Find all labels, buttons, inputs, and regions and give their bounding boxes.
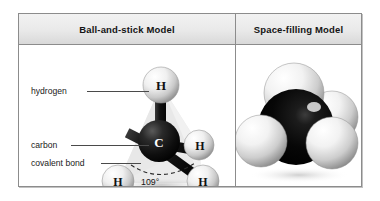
atom-label-hydrogen-top: H [156,78,166,93]
callout-label-carbon: carbon [31,140,57,150]
cell-space-filling-model [236,45,361,186]
header-cell-ball-and-stick: Ball-and-stick Model [19,14,236,44]
bond-angle-label: 109° [141,177,159,186]
sf-atom-hydrogen-right [306,117,358,169]
atom-label-hydrogen-bottom-right: H [198,175,208,186]
atom-hydrogen-top: H [143,67,179,103]
callout-label-hydrogen: hydrogen [31,86,67,96]
carbon-specular-highlight [307,102,321,112]
ground-shadow [249,167,349,183]
sf-atom-hydrogen-left [236,115,287,167]
atom-carbon-center: C [138,120,180,162]
leader-line-hydrogen [87,91,149,92]
figure-canvas: Ball-and-stick Model Space-filling Model [0,0,380,201]
figure-frame: Ball-and-stick Model Space-filling Model [18,13,362,187]
column-title-space-filling: Space-filling Model [254,24,343,35]
atom-label-hydrogen-right: H [195,139,205,153]
table-body-row: H H H H [19,45,361,186]
header-cell-space-filling: Space-filling Model [236,14,361,44]
atom-label-hydrogen-bottom-left: H [113,175,123,186]
callout-label-covalent-bond: covalent bond [31,158,85,168]
leader-line-covalent-bond [101,163,141,164]
table-header-row: Ball-and-stick Model Space-filling Model [19,14,361,45]
cell-ball-and-stick-model: H H H H [19,45,236,186]
leader-line-carbon [71,145,149,146]
atom-label-carbon: C [154,135,163,150]
space-filling-illustration [236,45,361,186]
column-title-ball-and-stick: Ball-and-stick Model [79,24,174,35]
atom-hydrogen-right: H [184,130,214,160]
